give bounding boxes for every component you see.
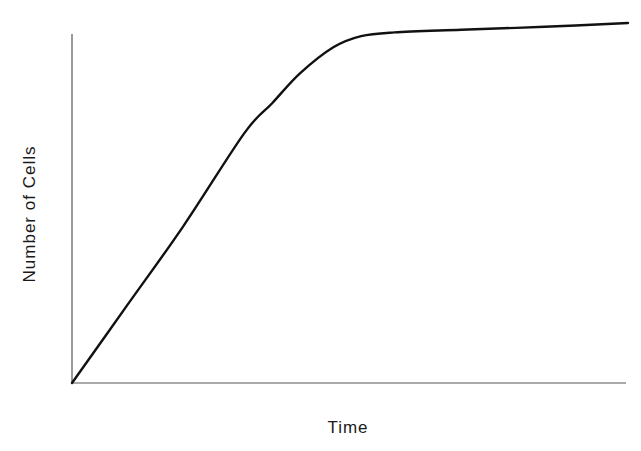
growth-curve: [72, 23, 628, 383]
y-axis-label: Number of Cells: [20, 146, 40, 283]
x-axis-label: Time: [327, 418, 368, 438]
chart-canvas: [0, 0, 641, 451]
